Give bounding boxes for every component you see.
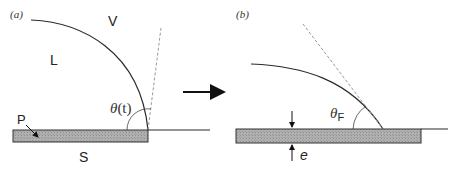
label-pattern: P	[17, 112, 26, 127]
label-solid: S	[79, 149, 88, 165]
droplet-profile-b	[251, 64, 383, 129]
tangent-line-a	[148, 28, 161, 130]
panel-b-label: (b)	[236, 8, 249, 21]
label-liquid: L	[50, 52, 58, 68]
contact-angle-label-a: θ(t)	[110, 100, 132, 117]
wetting-diagram: (a) V L P S θ(t) (b)	[0, 0, 454, 172]
substrate-b	[236, 129, 421, 143]
angle-arc-b	[353, 106, 366, 129]
thickness-label: e	[300, 147, 308, 163]
panel-a: (a) V L P S θ(t)	[10, 8, 210, 165]
panel-b: (b) e θF	[236, 8, 448, 163]
contact-angle-label-b: θF	[330, 105, 344, 123]
label-vapor: V	[108, 13, 118, 29]
panel-a-label: (a)	[10, 8, 23, 21]
